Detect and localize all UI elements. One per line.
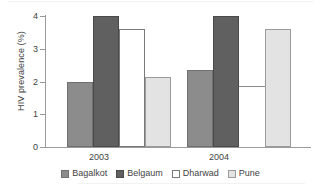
y-tick-mark-4 — [40, 16, 45, 17]
figure-top-rule — [8, 1, 313, 2]
y-tick-label-1: 1 — [18, 110, 38, 119]
legend-label-pune: Pune — [239, 169, 260, 178]
bar-2003-bagalkot — [67, 82, 93, 148]
legend-label-dharwad: Dharwad — [183, 169, 219, 178]
bar-2003-pune — [145, 77, 171, 147]
x-axis-label-2003: 2003 — [79, 152, 119, 162]
bar-2004-bagalkot — [187, 70, 213, 147]
legend-item-dharwad: Dharwad — [172, 169, 219, 178]
legend-swatch-icon-pune — [228, 170, 236, 178]
y-tick-mark-2 — [40, 82, 45, 83]
y-tick-mark-1 — [40, 114, 45, 115]
legend-item-belgaum: Belgaum — [116, 169, 163, 178]
y-tick-label-2: 2 — [18, 78, 38, 87]
x-axis-line — [45, 147, 311, 148]
y-axis-title: HIV prevalence (%) — [14, 1, 28, 141]
legend-swatch-icon-belgaum — [116, 170, 124, 178]
bar-2004-dharwad — [239, 86, 265, 147]
y-tick-label-0: 0 — [18, 143, 38, 152]
legend-label-bagalkot: Bagalkot — [72, 169, 107, 178]
y-tick-mark-0 — [40, 147, 45, 148]
legend-swatch-icon-dharwad — [172, 170, 180, 178]
bar-2003-belgaum — [93, 16, 119, 147]
y-tick-label-3: 3 — [18, 45, 38, 54]
legend-label-belgaum: Belgaum — [127, 169, 163, 178]
legend-swatch-icon-bagalkot — [61, 170, 69, 178]
y-tick-label-4: 4 — [18, 12, 38, 21]
bar-2004-pune — [265, 29, 291, 147]
x-axis-label-2004: 2004 — [199, 152, 239, 162]
legend-item-bagalkot: Bagalkot — [61, 169, 107, 178]
bar-2004-belgaum — [213, 16, 239, 147]
figure-bottom-rule — [78, 183, 305, 184]
chart-legend: Bagalkot Belgaum Dharwad Pune — [0, 169, 321, 178]
y-tick-mark-3 — [40, 49, 45, 50]
hiv-prevalence-bar-chart: HIV prevalence (%) 4 3 2 1 0 2003 2004 B… — [0, 0, 321, 193]
plot-area — [46, 16, 312, 147]
legend-item-pune: Pune — [228, 169, 260, 178]
bar-2003-dharwad — [119, 29, 145, 147]
